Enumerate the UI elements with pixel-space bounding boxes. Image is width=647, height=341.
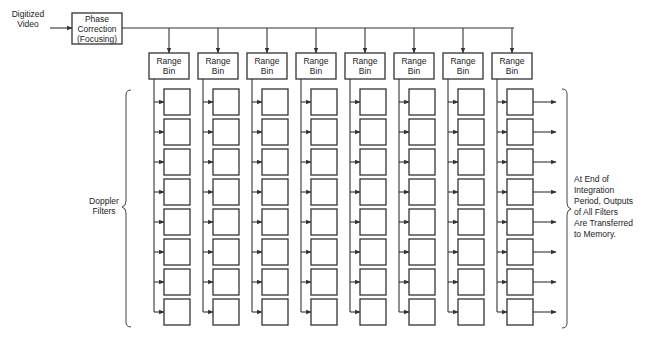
range-bin-label: Range Bin	[443, 56, 483, 76]
doppler-filter-box	[360, 89, 386, 115]
doppler-filter-box	[507, 239, 533, 265]
doppler-filter-box	[311, 179, 337, 205]
doppler-filter-box	[262, 239, 288, 265]
doppler-filter-box	[409, 299, 435, 325]
doppler-filter-box	[507, 209, 533, 235]
doppler-filter-box	[164, 299, 190, 325]
doppler-filter-box	[262, 269, 288, 295]
doppler-filter-box	[164, 209, 190, 235]
doppler-filter-box	[213, 209, 239, 235]
doppler-filter-box	[360, 239, 386, 265]
doppler-filter-box	[360, 149, 386, 175]
range-bin-label: Range Bin	[394, 56, 434, 76]
doppler-filter-box	[458, 239, 484, 265]
doppler-filter-bank-diagram	[0, 0, 647, 341]
doppler-filter-box	[164, 179, 190, 205]
doppler-filter-box	[409, 209, 435, 235]
doppler-filter-box	[311, 299, 337, 325]
doppler-filter-box	[262, 119, 288, 145]
doppler-filter-box	[262, 209, 288, 235]
doppler-filter-box	[409, 239, 435, 265]
range-bin-label: Range Bin	[492, 56, 532, 76]
doppler-filter-box	[311, 119, 337, 145]
doppler-filter-box	[458, 209, 484, 235]
doppler-filter-box	[213, 149, 239, 175]
doppler-filters-label: Doppler Filters	[84, 196, 124, 216]
doppler-filter-box	[360, 119, 386, 145]
doppler-filter-box	[458, 89, 484, 115]
doppler-filter-box	[409, 269, 435, 295]
doppler-filter-box	[164, 239, 190, 265]
doppler-filter-box	[360, 209, 386, 235]
doppler-filter-box	[360, 299, 386, 325]
doppler-filter-box	[507, 119, 533, 145]
range-bin-label: Range Bin	[247, 56, 287, 76]
range-bin-label: Range Bin	[296, 56, 336, 76]
doppler-filter-box	[458, 269, 484, 295]
doppler-filter-box	[311, 269, 337, 295]
doppler-filter-box	[164, 119, 190, 145]
doppler-filter-box	[409, 119, 435, 145]
doppler-filter-box	[262, 299, 288, 325]
doppler-filter-box	[213, 239, 239, 265]
doppler-filter-box	[262, 89, 288, 115]
doppler-filter-box	[213, 119, 239, 145]
output-note: At End of Integration Period, Outputs of…	[574, 174, 647, 240]
range-bin-label: Range Bin	[198, 56, 238, 76]
doppler-filter-box	[409, 149, 435, 175]
output-brace	[562, 89, 571, 328]
doppler-filter-box	[262, 179, 288, 205]
doppler-filter-box	[458, 149, 484, 175]
doppler-filter-box	[311, 239, 337, 265]
range-bin-label: Range Bin	[345, 56, 385, 76]
doppler-filter-box	[164, 269, 190, 295]
doppler-filter-box	[164, 89, 190, 115]
doppler-filter-box	[311, 209, 337, 235]
input-label: Digitized Video	[6, 9, 50, 29]
doppler-filter-box	[458, 299, 484, 325]
doppler-filter-box	[213, 89, 239, 115]
doppler-filter-box	[262, 149, 288, 175]
doppler-filter-box	[213, 269, 239, 295]
phase-correction-label: Phase Correction (Focusing)	[72, 14, 122, 44]
doppler-filter-box	[458, 179, 484, 205]
doppler-filter-box	[507, 269, 533, 295]
doppler-filter-box	[507, 179, 533, 205]
doppler-filter-box	[507, 299, 533, 325]
doppler-filter-box	[311, 89, 337, 115]
doppler-filter-box	[164, 149, 190, 175]
doppler-filter-box	[360, 179, 386, 205]
doppler-filter-box	[458, 119, 484, 145]
doppler-filter-box	[409, 179, 435, 205]
range-bin-label: Range Bin	[149, 56, 189, 76]
doppler-filter-box	[507, 89, 533, 115]
doppler-filter-box	[213, 299, 239, 325]
doppler-filter-box	[311, 149, 337, 175]
doppler-filter-box	[507, 149, 533, 175]
doppler-filter-box	[213, 179, 239, 205]
doppler-filter-box	[409, 89, 435, 115]
doppler-filter-box	[360, 269, 386, 295]
